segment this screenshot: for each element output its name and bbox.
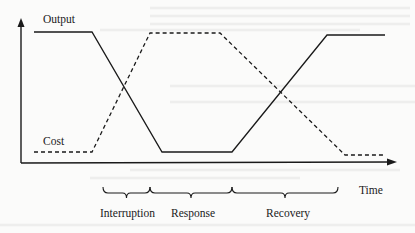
cost-line (34, 33, 383, 155)
phase-braces (103, 187, 338, 198)
cost-series-label: Cost (43, 136, 64, 148)
phase-brace-response (150, 187, 232, 198)
diagram-svg (0, 0, 415, 233)
x-axis-arrow-icon (387, 159, 397, 166)
diagram-canvas: Output Cost Time Interruption Response R… (0, 0, 415, 233)
phase-label-response: Response (171, 208, 215, 220)
phase-brace-recovery (232, 187, 338, 198)
output-line (34, 32, 385, 152)
x-axis (21, 159, 397, 166)
y-axis (18, 18, 25, 163)
phase-label-interruption: Interruption (100, 208, 155, 220)
y-axis-label: Output (43, 14, 75, 26)
phase-label-recovery: Recovery (266, 208, 310, 220)
phase-brace-interruption (103, 187, 150, 198)
x-axis-label: Time (359, 185, 383, 197)
y-axis-arrow-icon (18, 18, 25, 27)
